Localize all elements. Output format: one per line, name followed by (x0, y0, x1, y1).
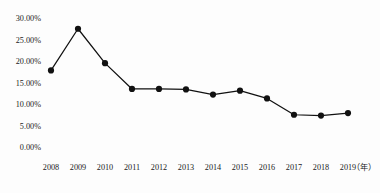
data-point-marker (210, 91, 216, 97)
x-tick-label: 2017 (286, 163, 302, 172)
x-axis-unit-label: （年） (352, 162, 376, 172)
x-tick-label: 2008 (43, 163, 59, 172)
series-line (51, 29, 348, 116)
data-point-marker (102, 60, 108, 66)
y-tick-label: 0.00% (20, 143, 41, 152)
y-tick-label: 10.00% (16, 100, 41, 109)
x-tick-label: 2014 (205, 163, 221, 172)
x-tick-label: 2009 (70, 163, 86, 172)
data-series (48, 26, 351, 119)
x-tick-label: 2010 (97, 163, 113, 172)
chart-canvas: 0.00%5.00%10.00%15.00%20.00%25.00%30.00%… (0, 0, 380, 193)
data-point-marker (264, 95, 270, 101)
data-point-marker (156, 86, 162, 92)
data-point-marker (291, 112, 297, 118)
y-tick-label: 15.00% (16, 79, 41, 88)
data-point-marker (237, 88, 243, 94)
y-tick-label: 5.00% (20, 122, 41, 131)
x-tick-label: 2015 (232, 163, 248, 172)
x-axis: 2008200920102011201220132014201520162017… (43, 163, 356, 172)
y-tick-label: 25.00% (16, 36, 41, 45)
x-tick-label: 2016 (259, 163, 275, 172)
data-point-marker (75, 26, 81, 32)
y-tick-label: 30.00% (16, 14, 41, 23)
y-tick-label: 20.00% (16, 57, 41, 66)
data-point-marker (48, 67, 54, 73)
data-point-marker (345, 110, 351, 116)
x-tick-label: 2011 (124, 163, 140, 172)
data-point-marker (318, 113, 324, 119)
data-point-marker (183, 86, 189, 92)
x-tick-label: 2018 (313, 163, 329, 172)
x-tick-label: 2013 (178, 163, 194, 172)
line-chart: 0.00%5.00%10.00%15.00%20.00%25.00%30.00%… (0, 0, 380, 193)
data-point-marker (129, 86, 135, 92)
y-axis: 0.00%5.00%10.00%15.00%20.00%25.00%30.00% (16, 14, 41, 152)
x-tick-label: 2012 (151, 163, 167, 172)
